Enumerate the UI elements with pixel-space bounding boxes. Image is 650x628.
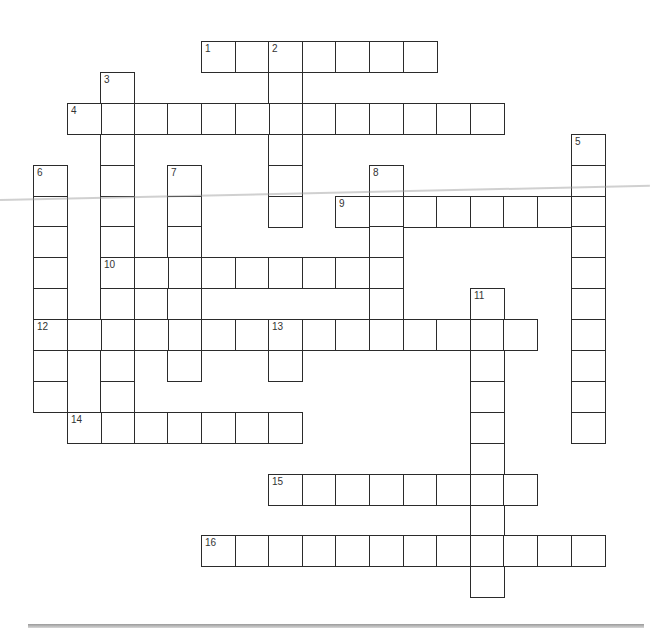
crossword-cell[interactable] xyxy=(571,165,606,197)
crossword-cell[interactable] xyxy=(235,412,270,444)
crossword-cell[interactable]: 11 xyxy=(470,288,505,320)
crossword-cell[interactable]: 2 xyxy=(268,41,303,73)
crossword-cell[interactable] xyxy=(33,226,68,258)
crossword-cell[interactable] xyxy=(571,381,606,413)
crossword-cell[interactable] xyxy=(268,72,303,104)
crossword-cell[interactable]: 3 xyxy=(100,72,135,104)
crossword-cell[interactable] xyxy=(503,535,538,567)
crossword-cell[interactable] xyxy=(100,103,135,135)
crossword-cell[interactable]: 7 xyxy=(167,165,202,197)
crossword-cell[interactable] xyxy=(537,535,572,567)
crossword-cell[interactable] xyxy=(470,319,505,351)
crossword-cell[interactable]: 9 xyxy=(335,196,370,228)
crossword-cell[interactable] xyxy=(403,196,438,228)
crossword-cell[interactable]: 16 xyxy=(201,535,236,567)
crossword-cell[interactable] xyxy=(571,226,606,258)
crossword-cell[interactable] xyxy=(268,350,303,382)
crossword-cell[interactable] xyxy=(537,196,572,228)
crossword-cell[interactable] xyxy=(134,103,169,135)
crossword-cell[interactable] xyxy=(403,41,438,73)
crossword-cell[interactable] xyxy=(302,319,337,351)
crossword-cell[interactable] xyxy=(571,535,606,567)
crossword-cell[interactable]: 8 xyxy=(369,165,404,197)
crossword-cell[interactable]: 12 xyxy=(33,319,68,351)
crossword-cell[interactable] xyxy=(235,257,270,289)
crossword-cell[interactable] xyxy=(335,474,370,506)
crossword-cell[interactable] xyxy=(268,165,303,197)
crossword-cell[interactable] xyxy=(302,257,337,289)
crossword-cell[interactable] xyxy=(470,443,505,475)
crossword-cell[interactable] xyxy=(503,196,538,228)
crossword-cell[interactable]: 10 xyxy=(100,257,135,289)
crossword-cell[interactable] xyxy=(235,41,270,73)
crossword-cell[interactable] xyxy=(268,257,303,289)
crossword-cell[interactable] xyxy=(369,196,404,228)
crossword-cell[interactable] xyxy=(436,103,471,135)
crossword-cell[interactable] xyxy=(235,319,270,351)
crossword-cell[interactable] xyxy=(167,257,202,289)
crossword-cell[interactable]: 15 xyxy=(268,474,303,506)
crossword-cell[interactable] xyxy=(335,535,370,567)
crossword-cell[interactable] xyxy=(571,196,606,228)
crossword-cell[interactable] xyxy=(335,103,370,135)
crossword-cell[interactable] xyxy=(571,257,606,289)
crossword-cell[interactable] xyxy=(268,196,303,228)
crossword-cell[interactable] xyxy=(369,226,404,258)
crossword-cell[interactable] xyxy=(335,41,370,73)
crossword-cell[interactable] xyxy=(369,41,404,73)
crossword-cell[interactable] xyxy=(167,226,202,258)
crossword-cell[interactable] xyxy=(369,103,404,135)
crossword-cell[interactable] xyxy=(436,474,471,506)
crossword-cell[interactable] xyxy=(470,535,505,567)
crossword-cell[interactable] xyxy=(268,134,303,166)
crossword-cell[interactable] xyxy=(369,474,404,506)
crossword-cell[interactable] xyxy=(571,412,606,444)
crossword-cell[interactable] xyxy=(201,412,236,444)
crossword-cell[interactable] xyxy=(235,535,270,567)
crossword-cell[interactable] xyxy=(167,350,202,382)
crossword-cell[interactable] xyxy=(100,165,135,197)
crossword-cell[interactable] xyxy=(571,350,606,382)
crossword-cell[interactable] xyxy=(470,474,505,506)
crossword-cell[interactable]: 4 xyxy=(67,103,102,135)
crossword-cell[interactable] xyxy=(436,196,471,228)
crossword-cell[interactable] xyxy=(33,350,68,382)
crossword-cell[interactable] xyxy=(335,257,370,289)
crossword-cell[interactable] xyxy=(134,257,169,289)
crossword-cell[interactable]: 13 xyxy=(268,319,303,351)
crossword-cell[interactable] xyxy=(167,103,202,135)
crossword-cell[interactable] xyxy=(571,319,606,351)
crossword-cell[interactable] xyxy=(167,412,202,444)
crossword-cell[interactable] xyxy=(33,381,68,413)
crossword-cell[interactable] xyxy=(134,319,169,351)
crossword-cell[interactable] xyxy=(302,474,337,506)
crossword-cell[interactable] xyxy=(436,535,471,567)
crossword-cell[interactable] xyxy=(571,288,606,320)
crossword-cell[interactable] xyxy=(335,319,370,351)
crossword-cell[interactable]: 1 xyxy=(201,41,236,73)
crossword-cell[interactable] xyxy=(503,319,538,351)
crossword-cell[interactable] xyxy=(470,505,505,537)
crossword-cell[interactable] xyxy=(268,412,303,444)
crossword-cell[interactable]: 14 xyxy=(67,412,102,444)
crossword-cell[interactable] xyxy=(369,288,404,320)
crossword-cell[interactable] xyxy=(201,257,236,289)
crossword-cell[interactable] xyxy=(100,134,135,166)
crossword-cell[interactable] xyxy=(503,474,538,506)
crossword-cell[interactable] xyxy=(100,196,135,228)
crossword-cell[interactable] xyxy=(235,103,270,135)
crossword-cell[interactable] xyxy=(268,103,303,135)
crossword-cell[interactable] xyxy=(403,103,438,135)
crossword-cell[interactable] xyxy=(403,474,438,506)
crossword-cell[interactable] xyxy=(470,412,505,444)
crossword-cell[interactable] xyxy=(268,535,303,567)
crossword-cell[interactable] xyxy=(100,381,135,413)
crossword-cell[interactable] xyxy=(470,566,505,598)
crossword-cell[interactable] xyxy=(33,196,68,228)
crossword-cell[interactable] xyxy=(302,103,337,135)
crossword-cell[interactable] xyxy=(302,41,337,73)
crossword-cell[interactable] xyxy=(470,103,505,135)
crossword-cell[interactable] xyxy=(33,257,68,289)
crossword-cell[interactable] xyxy=(167,319,202,351)
crossword-cell[interactable] xyxy=(167,288,202,320)
